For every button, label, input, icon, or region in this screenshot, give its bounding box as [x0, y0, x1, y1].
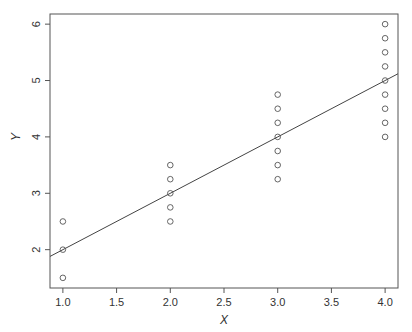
data-point: [167, 162, 173, 168]
scatter-plot: 1.01.52.02.53.03.54.0 23456 X Y: [0, 0, 412, 332]
y-axis-title: Y: [9, 132, 23, 141]
x-tick-label: 4.0: [377, 296, 392, 308]
y-axis: 23456: [30, 21, 50, 253]
x-tick-label: 3.5: [324, 296, 339, 308]
data-point: [382, 106, 388, 112]
data-point: [382, 92, 388, 98]
data-point: [275, 120, 281, 126]
y-tick-label: 5: [30, 77, 42, 83]
x-tick-label: 2.0: [163, 296, 178, 308]
data-point: [275, 92, 281, 98]
data-point: [60, 275, 66, 281]
y-tick-label: 4: [30, 134, 42, 140]
data-point: [60, 219, 66, 225]
data-point: [167, 205, 173, 211]
data-point: [382, 35, 388, 41]
data-point: [382, 64, 388, 70]
data-point: [167, 219, 173, 225]
x-axis-title: X: [219, 313, 229, 327]
data-point: [382, 21, 388, 27]
x-tick-label: 1.0: [55, 296, 70, 308]
y-tick-label: 3: [30, 190, 42, 196]
fit-line: [50, 74, 398, 257]
data-point: [275, 106, 281, 112]
x-tick-label: 1.5: [109, 296, 124, 308]
x-tick-label: 3.0: [270, 296, 285, 308]
x-tick-label: 2.5: [216, 296, 231, 308]
data-point: [167, 176, 173, 182]
data-point: [382, 134, 388, 140]
x-axis: 1.01.52.02.53.03.54.0: [55, 288, 393, 308]
data-point: [275, 148, 281, 154]
y-tick-label: 2: [30, 247, 42, 253]
data-point: [382, 120, 388, 126]
data-point: [275, 176, 281, 182]
y-tick-label: 6: [30, 21, 42, 27]
regression-line: [50, 74, 398, 257]
plot-frame: [50, 14, 398, 288]
data-points: [60, 21, 388, 280]
data-point: [382, 50, 388, 56]
data-point: [275, 162, 281, 168]
